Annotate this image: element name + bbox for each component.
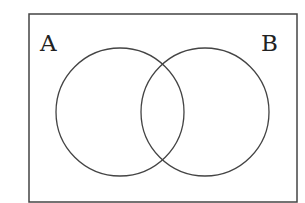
- set-b-circle: [141, 48, 269, 176]
- set-b-label: B: [261, 30, 278, 56]
- venn-diagram: A B: [0, 0, 305, 203]
- universe-box: [29, 14, 297, 202]
- set-a-circle: [56, 48, 184, 176]
- set-a-label: A: [39, 30, 57, 56]
